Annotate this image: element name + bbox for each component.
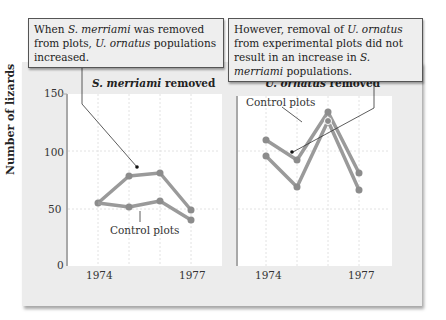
control-plots-label-left: Control plots xyxy=(110,224,179,236)
gridlines-left xyxy=(68,94,220,266)
callout-left: When S. merriami was removed from plots,… xyxy=(28,18,224,68)
series-left-experimental xyxy=(95,170,195,214)
gridlines-right xyxy=(238,96,390,266)
leader-line-control-right xyxy=(282,107,302,122)
series-right-experimental xyxy=(263,118,363,194)
callout-right: However, removal of U. ornatus from expe… xyxy=(228,18,423,82)
control-plots-label-right: Control plots xyxy=(246,96,315,108)
series-left-control xyxy=(98,198,195,224)
